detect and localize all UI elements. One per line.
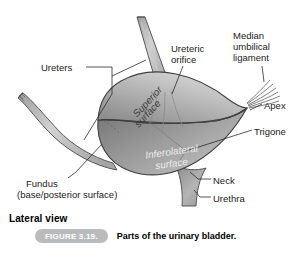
view-label: Lateral view bbox=[9, 213, 67, 224]
label-median-umbilical-ligament: Median umbilical ligament bbox=[233, 30, 270, 63]
label-neck: Neck bbox=[213, 175, 235, 186]
figure-number-badge: FIGURE 3.19. bbox=[35, 229, 108, 243]
label-trigone: Trigone bbox=[254, 126, 286, 137]
label-ureters: Ureters bbox=[41, 62, 72, 73]
label-fundus: Fundus bbox=[26, 178, 58, 189]
bladder-neck-urethra bbox=[176, 166, 206, 206]
label-apex: Apex bbox=[264, 100, 286, 111]
label-urethra: Urethra bbox=[213, 193, 245, 204]
figure-caption-row: FIGURE 3.19. Parts of the urinary bladde… bbox=[35, 229, 236, 243]
label-fundus-subtitle: (base/posterior surface) bbox=[17, 189, 117, 200]
figure-caption-text: Parts of the urinary bladder. bbox=[117, 231, 237, 241]
figure-page: Superior surface Inferolateral surface U… bbox=[0, 0, 302, 262]
label-ureteric-orifice: Ureteric orifice bbox=[171, 43, 204, 65]
